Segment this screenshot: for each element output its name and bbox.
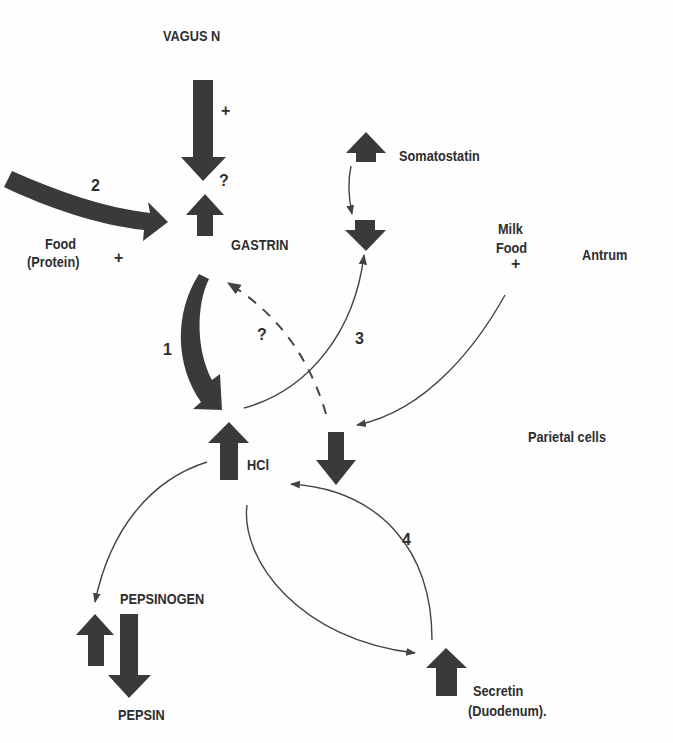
somatostatin-up-arrow-icon bbox=[346, 132, 386, 162]
hcl-label: HCl bbox=[247, 457, 269, 473]
vagus-question-mark: ? bbox=[219, 173, 229, 190]
gastrin-to-hcl-curved-arrow-icon bbox=[181, 274, 222, 410]
somatostatin-down-arrow-icon bbox=[345, 220, 386, 251]
somatostatin-label: Somatostatin bbox=[399, 148, 480, 164]
somatostatin-link-arrow bbox=[349, 166, 352, 214]
hcl-up-arrow-icon bbox=[208, 422, 249, 480]
vagus-plus-sign: + bbox=[221, 103, 230, 120]
diagram-graphics bbox=[0, 0, 673, 743]
pepsinogen-up-arrow-icon bbox=[76, 614, 114, 666]
duodenum-label: (Duodenum). bbox=[468, 703, 547, 719]
feedback-question-mark: ? bbox=[257, 327, 267, 344]
milk-label: Milk bbox=[498, 221, 523, 237]
food-to-gastrin-arrow-icon bbox=[4, 171, 168, 241]
vagus-down-arrow-icon bbox=[181, 80, 226, 181]
secretin-label: Secretin bbox=[473, 683, 523, 699]
pathway-3-label: 3 bbox=[355, 331, 364, 348]
hcl-to-secretin-arrow bbox=[246, 505, 415, 653]
antrum-label: Antrum bbox=[582, 247, 627, 263]
hcl-down-arrow-icon bbox=[316, 432, 356, 485]
milk-plus-sign: + bbox=[511, 256, 520, 273]
pathway-2-label: 2 bbox=[91, 178, 100, 195]
pathway-1-label: 1 bbox=[163, 342, 172, 359]
parietal-cells-label: Parietal cells bbox=[528, 429, 606, 445]
food-plus-sign: + bbox=[114, 250, 123, 267]
gastric-regulation-diagram: VAGUS N + ? 2 Food (Protein) + GASTRIN S… bbox=[0, 0, 673, 743]
pepsin-down-arrow-icon bbox=[108, 614, 151, 698]
hcl-to-pepsinogen-arrow bbox=[95, 462, 207, 602]
milk-to-hcl-decrease-arrow bbox=[357, 295, 505, 425]
secretin-up-arrow-icon bbox=[426, 648, 467, 696]
gastrin-up-arrow-icon bbox=[186, 194, 224, 236]
vagus-nerve-label: VAGUS N bbox=[163, 28, 220, 44]
food-label: Food bbox=[45, 236, 76, 252]
pepsinogen-label: PEPSINOGEN bbox=[120, 591, 204, 607]
pathway-4-label: 4 bbox=[402, 532, 411, 549]
milk-food-label: Food bbox=[496, 240, 527, 256]
protein-label: (Protein) bbox=[27, 254, 79, 270]
pepsin-label: PEPSIN bbox=[118, 707, 165, 723]
gastrin-label: GASTRIN bbox=[231, 237, 288, 253]
